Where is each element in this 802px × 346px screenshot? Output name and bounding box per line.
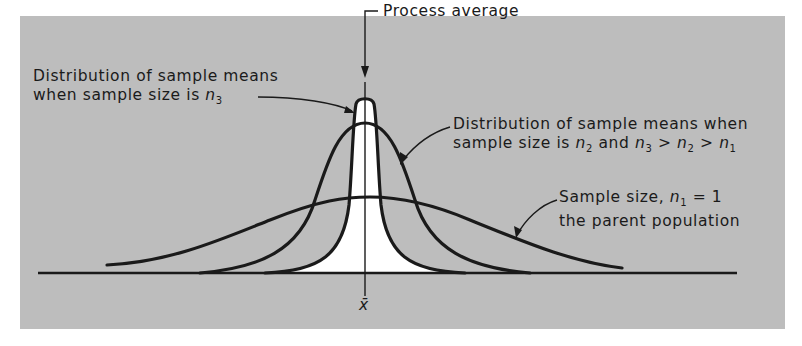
- ineq-var-1: n: [719, 134, 729, 152]
- x-bar-label: x̄: [359, 296, 369, 315]
- n2-label-prefix: sample size is: [453, 134, 576, 152]
- arrowhead-icon: [400, 152, 408, 165]
- ineq-subscript-1: 1: [730, 143, 737, 154]
- arrowhead-icon: [344, 106, 355, 113]
- arrowhead-icon: [361, 66, 369, 78]
- ineq-gt-1: >: [652, 134, 677, 152]
- n2-distribution-label: Distribution of sample means when sample…: [453, 115, 748, 158]
- n2-label-line1: Distribution of sample means when: [453, 115, 748, 134]
- n2-label-line2: sample size is n2 and n3 > n2 > n1: [453, 134, 748, 158]
- n2-label-leader: [403, 127, 450, 160]
- n2-subscript: 2: [586, 143, 593, 154]
- process-average-text: Process average: [383, 2, 519, 20]
- ineq-var-3: n: [635, 134, 645, 152]
- n2-and-text: and: [593, 134, 635, 152]
- process-average-label: Process average: [383, 2, 519, 21]
- distribution-curves-drawing: [0, 0, 802, 346]
- n3-label-line2: when sample size is n3: [33, 86, 278, 110]
- n3-subscript: 3: [216, 95, 223, 106]
- n2-var: n: [576, 134, 586, 152]
- x-bar-text: x̄: [359, 296, 369, 314]
- n3-distribution-label: Distribution of sample means when sample…: [33, 67, 278, 110]
- n3-var: n: [205, 86, 215, 104]
- sampling-distribution-figure: Process average Distribution of sample m…: [0, 0, 802, 346]
- n3-label-prefix: when sample size is: [33, 86, 205, 104]
- n1-label-line1: Sample size, n1 = 1: [559, 188, 740, 212]
- ineq-var-2: n: [677, 134, 687, 152]
- process-average-arrow: [365, 11, 378, 72]
- n3-label-line1: Distribution of sample means: [33, 67, 278, 86]
- n1-parent-label: Sample size, n1 = 1 the parent populatio…: [559, 188, 740, 231]
- ineq-gt-2: >: [694, 134, 719, 152]
- n1-label-line2: the parent population: [559, 212, 740, 231]
- n1-label-prefix: Sample size,: [559, 188, 670, 206]
- n1-equals-one: = 1: [687, 188, 722, 206]
- n1-label-leader: [517, 200, 557, 235]
- n1-var: n: [670, 188, 680, 206]
